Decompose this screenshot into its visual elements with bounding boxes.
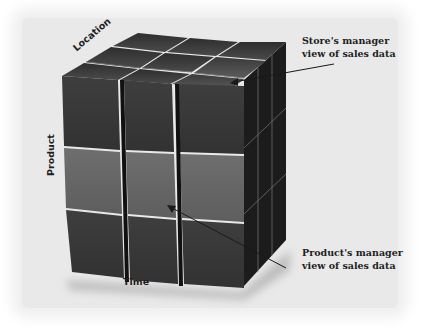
cube-front-face: [62, 76, 244, 288]
product-callout-line-1: Product's manager: [302, 246, 403, 259]
product-callout-line-2: view of sales data: [302, 259, 403, 272]
axis-label-time: Time: [123, 275, 149, 288]
axis-label-product: Product: [44, 134, 57, 176]
product-manager-callout: Product's manager view of sales data: [302, 246, 403, 272]
store-callout-line-2: view of sales data: [302, 47, 396, 60]
store-callout-line-1: Store's manager: [302, 34, 396, 47]
store-manager-callout: Store's manager view of sales data: [302, 34, 396, 60]
